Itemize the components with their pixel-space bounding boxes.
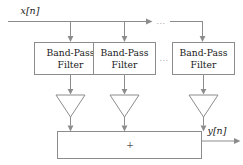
input-bus-arrowhead	[146, 19, 153, 25]
filter-block-2[interactable]: Band-Pass Filter	[94, 43, 156, 75]
gain-block-1[interactable]	[56, 95, 85, 117]
output-bus	[202, 138, 241, 144]
filter-to-gain-wires	[68, 75, 207, 95]
summer-input-arrowhead-3	[201, 126, 207, 132]
filter-box-2-line2: Filter	[112, 59, 138, 70]
gain-triangle-3[interactable]	[189, 95, 218, 117]
gain-to-summer-wires	[68, 117, 207, 132]
filter-box-3-line2: Filter	[191, 59, 217, 70]
diagram-canvas: x[n] ... Band-Pass Filter Band-Pass Filt…	[0, 0, 243, 165]
filter-bank-diagram: x[n] ... Band-Pass Filter Band-Pass Filt…	[0, 0, 243, 165]
input-signal-label: x[n]	[21, 5, 40, 16]
gain-block-3[interactable]	[189, 95, 218, 117]
summer-input-arrowhead-2	[122, 126, 128, 132]
drop-arrowhead-2	[122, 36, 128, 42]
drop-arrowhead-1	[68, 36, 74, 42]
input-bus-ellipsis: ...	[157, 17, 166, 26]
filter-row-ellipsis: ...	[160, 54, 169, 63]
summer-input-arrowhead-1	[68, 126, 74, 132]
drop-arrowhead-3	[200, 36, 206, 42]
filter-box-1-line2: Filter	[58, 59, 84, 70]
input-bus	[8, 19, 203, 25]
filter-box-1-line1: Band-Pass	[47, 47, 95, 58]
bus-to-filter-drops	[68, 22, 206, 43]
summer-plus-symbol: +	[126, 140, 134, 150]
output-signal-label: y[n]	[207, 125, 227, 136]
filter-box-3-line1: Band-Pass	[180, 47, 228, 58]
gain-input-arrowhead-3	[201, 89, 207, 95]
gain-input-arrowhead-2	[122, 89, 128, 95]
gain-input-arrowhead-1	[68, 89, 74, 95]
gain-triangle-1[interactable]	[56, 95, 85, 117]
output-arrowhead	[234, 138, 241, 144]
filter-block-3[interactable]: Band-Pass Filter	[173, 43, 235, 75]
summer-block[interactable]: +	[58, 132, 202, 159]
gain-triangle-2[interactable]	[110, 95, 139, 117]
gain-block-2[interactable]	[110, 95, 139, 117]
filter-box-2-line1: Band-Pass	[101, 47, 149, 58]
